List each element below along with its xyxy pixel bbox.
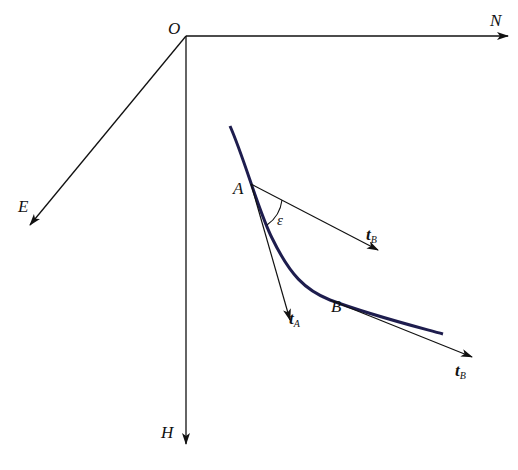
tangent-b-at-a-vector	[251, 184, 378, 250]
north-label: N	[490, 12, 501, 29]
t-b-at-a-label: tB	[366, 226, 377, 245]
vertical-label: H	[161, 424, 173, 441]
point-a-label: A	[233, 180, 243, 197]
east-label: E	[18, 198, 28, 215]
wellbore-trajectory-diagram: O N E H A B ε tB tA tB	[0, 0, 518, 470]
tangent-b-vector	[330, 300, 472, 357]
t-a-label: tA	[289, 310, 300, 329]
diagram-graphics	[0, 0, 518, 470]
tangent-a-vector	[251, 184, 290, 320]
point-b-label: B	[331, 298, 341, 315]
t-b-label: tB	[455, 362, 466, 381]
angle-epsilon-label: ε	[277, 213, 283, 228]
origin-label: O	[168, 20, 180, 37]
east-axis	[30, 36, 186, 225]
